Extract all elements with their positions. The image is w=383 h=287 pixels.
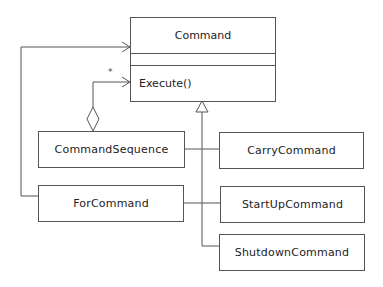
class-startup-command[interactable]: StartUpCommand bbox=[220, 186, 365, 223]
class-command[interactable]: Command Execute() bbox=[130, 17, 276, 102]
forcommand-association-line bbox=[21, 47, 130, 196]
class-command-operation: Execute() bbox=[139, 66, 275, 101]
class-carry-command[interactable]: CarryCommand bbox=[219, 132, 364, 169]
class-command-sequence[interactable]: CommandSequence bbox=[38, 131, 185, 168]
class-command-name: Command bbox=[131, 18, 275, 54]
class-for-command[interactable]: ForCommand bbox=[38, 185, 184, 222]
class-command-attributes bbox=[131, 54, 275, 66]
class-shutdown-command[interactable]: ShutdownCommand bbox=[219, 234, 365, 271]
multiplicity-label: * bbox=[108, 67, 113, 77]
inheritance-triangle-icon bbox=[196, 101, 208, 112]
aggregation-diamond-icon bbox=[87, 107, 99, 131]
